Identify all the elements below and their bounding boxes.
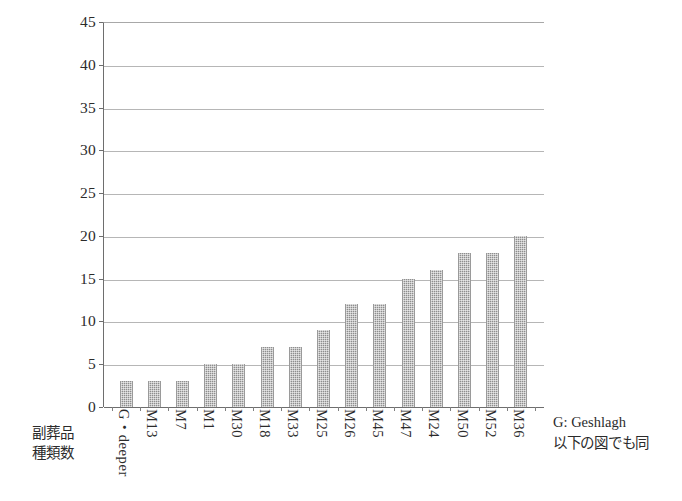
- plot-area: [103, 22, 544, 407]
- y-axis-title-line2: 種類数: [8, 444, 98, 464]
- y-axis-tick-label: 0: [0, 399, 96, 415]
- x-axis-tick-label: M26: [342, 409, 357, 438]
- y-axis-tick-label: 20: [0, 228, 96, 244]
- y-axis: 051015202530354045: [0, 22, 96, 407]
- bar: [148, 381, 161, 407]
- x-axis-tick-label: M1: [201, 409, 216, 430]
- x-axis-tick-label: M52: [483, 409, 498, 438]
- y-axis-tick-label: 10: [0, 314, 96, 330]
- bar: [120, 381, 133, 407]
- y-axis-tick-label: 25: [0, 185, 96, 201]
- figure-caption: [78, 487, 638, 501]
- y-axis-title: 副葬品 種類数: [8, 424, 98, 463]
- bar-chart-figure: 051015202530354045 G・deeperM13M7M1M30M18…: [0, 0, 682, 501]
- bar-series: [104, 23, 544, 407]
- x-axis-tick-label: M24: [427, 409, 442, 438]
- bar: [345, 304, 358, 407]
- bar: [486, 253, 499, 407]
- x-axis-tick-label: M13: [145, 409, 160, 438]
- y-axis-tick-label: 15: [0, 271, 96, 287]
- y-axis-tick-mark: [99, 407, 103, 408]
- x-axis-tick-label: M18: [258, 409, 273, 438]
- x-axis-tick-label: G・deeper: [117, 409, 132, 477]
- bar: [373, 304, 386, 407]
- bar: [430, 270, 443, 407]
- bar: [317, 330, 330, 407]
- y-axis-tick-label: 40: [0, 57, 96, 73]
- bar: [402, 279, 415, 407]
- legend-figure-note: 以下の図でも同: [553, 433, 681, 454]
- bar: [514, 236, 527, 407]
- bar: [232, 364, 245, 407]
- x-axis-tick-label: M47: [399, 409, 414, 438]
- y-axis-tick-label: 5: [0, 356, 96, 372]
- x-axis-tick-label: M7: [173, 409, 188, 430]
- x-axis-tick-label: M45: [370, 409, 385, 438]
- bar: [458, 253, 471, 407]
- bar: [204, 364, 217, 407]
- x-axis-tick-label: M30: [229, 409, 244, 438]
- legend-abbreviation-note: G: Geshlagh: [553, 412, 681, 433]
- bar: [176, 381, 189, 407]
- y-axis-tick-label: 30: [0, 143, 96, 159]
- bar: [289, 347, 302, 407]
- x-axis-tick-label: M50: [455, 409, 470, 438]
- y-axis-title-line1: 副葬品: [8, 424, 98, 444]
- y-axis-tick-label: 45: [0, 14, 96, 30]
- x-axis-tick-label: M25: [314, 409, 329, 438]
- bar: [261, 347, 274, 407]
- x-axis-tick-label: M33: [286, 409, 301, 438]
- y-axis-tick-label: 35: [0, 100, 96, 116]
- x-axis-tick-label: M36: [511, 409, 526, 438]
- legend-note: G: Geshlagh 以下の図でも同: [553, 412, 681, 454]
